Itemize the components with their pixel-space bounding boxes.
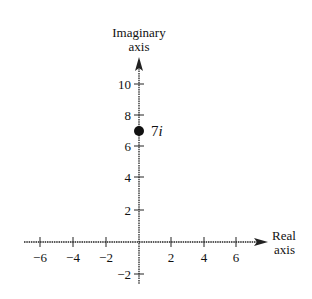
y-axis-title-line1: Imaginary [112, 25, 166, 40]
x-tick-label: 4 [201, 250, 208, 265]
y-tick-label: −2 [117, 267, 131, 282]
y-tick-label: 8 [125, 108, 132, 123]
real-axis-arrow-icon [254, 238, 268, 246]
y-tick-label: 4 [125, 170, 132, 185]
x-tick-label: −6 [33, 250, 47, 265]
y-tick-label: 6 [125, 139, 132, 154]
y-tick-label: 2 [125, 203, 132, 218]
x-tick-label: 2 [168, 250, 175, 265]
x-tick-labels: −6 −4 −2 2 4 6 [33, 250, 240, 265]
x-tick-label: −2 [99, 250, 113, 265]
point-label: 7i [151, 123, 163, 139]
x-axis-title-line1: Real [272, 228, 296, 243]
data-point-7i [134, 126, 144, 136]
y-axis-title-line2: axis [129, 39, 150, 54]
x-tick-label: 6 [233, 250, 240, 265]
complex-plane-chart: −6 −4 −2 2 4 6 10 8 6 4 2 −2 Imaginary a… [0, 0, 312, 299]
y-tick-label: 10 [118, 77, 131, 92]
x-tick-label: −4 [66, 250, 80, 265]
x-axis-title-line2: axis [274, 242, 295, 257]
y-tick-labels: 10 8 6 4 2 −2 [117, 77, 131, 282]
